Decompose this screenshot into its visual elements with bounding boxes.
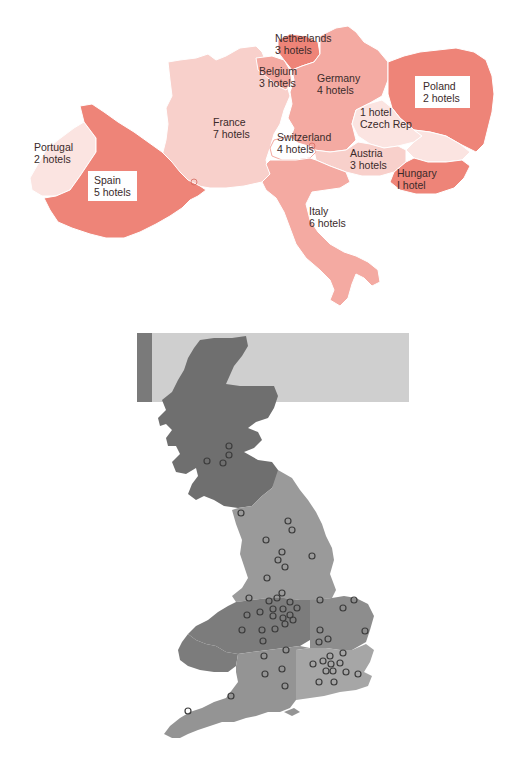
hotel-count: 3 hotels	[350, 159, 387, 171]
label-france: France 7 hotels	[213, 116, 250, 140]
country-name: Netherlands	[275, 32, 332, 44]
hotel-count: 3 hotels	[259, 77, 297, 89]
country-name: Germany	[317, 72, 360, 84]
country-italy[interactable]	[262, 158, 380, 306]
banner-strip	[137, 333, 152, 402]
hotel-count: 4 hotels	[277, 143, 331, 155]
label-czech-rep: 1 hotel Czech Rep	[360, 106, 412, 130]
label-portugal: Portugal 2 hotels	[34, 141, 73, 165]
label-italy: Italy 6 hotels	[309, 205, 346, 229]
hotel-count: 4 hotels	[317, 84, 360, 96]
label-spain: Spain 5 hotels	[88, 171, 137, 201]
label-netherlands: Netherlands 3 hotels	[275, 32, 332, 56]
country-name: Italy	[309, 205, 346, 217]
hotel-count: 2 hotels	[34, 153, 73, 165]
hotel-count: 5 hotels	[94, 186, 131, 198]
country-name: France	[213, 116, 250, 128]
label-germany: Germany 4 hotels	[317, 72, 360, 96]
country-name: Poland	[423, 80, 460, 92]
country-name: Portugal	[34, 141, 73, 153]
region-east[interactable]	[310, 596, 374, 650]
country-name: Belgium	[259, 65, 297, 77]
hotel-count: I hotel	[397, 179, 437, 191]
country-name: Austria	[350, 147, 387, 159]
hotel-count: 1 hotel	[360, 106, 412, 118]
country-name: Czech Rep	[360, 118, 412, 130]
hotel-count: 2 hotels	[423, 92, 460, 104]
label-austria: Austria 3 hotels	[350, 147, 387, 171]
uk-map-svg	[0, 330, 521, 757]
hotel-count: 3 hotels	[275, 44, 332, 56]
hotel-count: 7 hotels	[213, 128, 250, 140]
country-name: Spain	[94, 174, 131, 186]
europe-map-svg	[0, 0, 521, 330]
country-name: Switzerland	[277, 131, 331, 143]
label-poland: Poland 2 hotels	[415, 76, 470, 108]
hotel-count: 6 hotels	[309, 217, 346, 229]
region-southeast[interactable]	[296, 644, 374, 700]
label-hungary: Hungary I hotel	[397, 167, 437, 191]
uk-hotel-map	[0, 330, 521, 757]
label-switzerland: Switzerland 4 hotels	[277, 131, 331, 155]
europe-hotel-map: Portugal 2 hotels Spain 5 hotels France …	[0, 0, 521, 330]
label-belgium: Belgium 3 hotels	[259, 65, 297, 89]
country-name: Hungary	[397, 167, 437, 179]
